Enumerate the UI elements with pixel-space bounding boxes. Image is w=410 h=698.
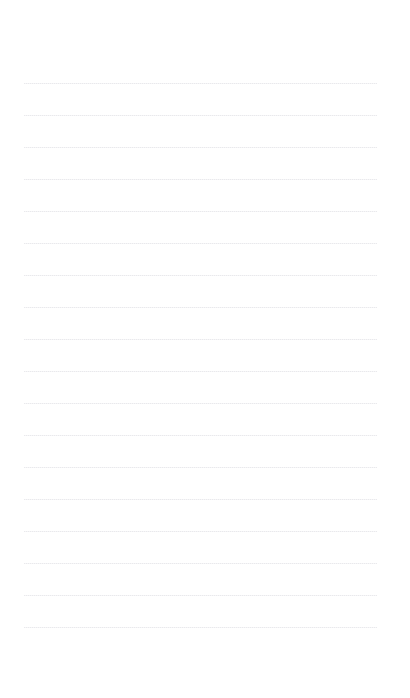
notebook-page	[0, 0, 410, 698]
rule-line[interactable]	[24, 179, 377, 180]
rule-line[interactable]	[24, 147, 377, 148]
rule-line[interactable]	[24, 307, 377, 308]
rule-line[interactable]	[24, 563, 377, 564]
rule-line[interactable]	[24, 243, 377, 244]
rule-line[interactable]	[24, 115, 377, 116]
rule-line[interactable]	[24, 275, 377, 276]
rule-line[interactable]	[24, 371, 377, 372]
rule-line[interactable]	[24, 467, 377, 468]
rule-line[interactable]	[24, 403, 377, 404]
rule-line[interactable]	[24, 595, 377, 596]
rule-line[interactable]	[24, 211, 377, 212]
ruled-writing-area[interactable]	[0, 0, 410, 698]
rule-line[interactable]	[24, 627, 377, 628]
page-footer-zone	[0, 636, 410, 698]
rule-line[interactable]	[24, 339, 377, 340]
rule-line[interactable]	[24, 499, 377, 500]
rule-line[interactable]	[24, 435, 377, 436]
rule-line[interactable]	[24, 83, 377, 84]
rule-line[interactable]	[24, 531, 377, 532]
